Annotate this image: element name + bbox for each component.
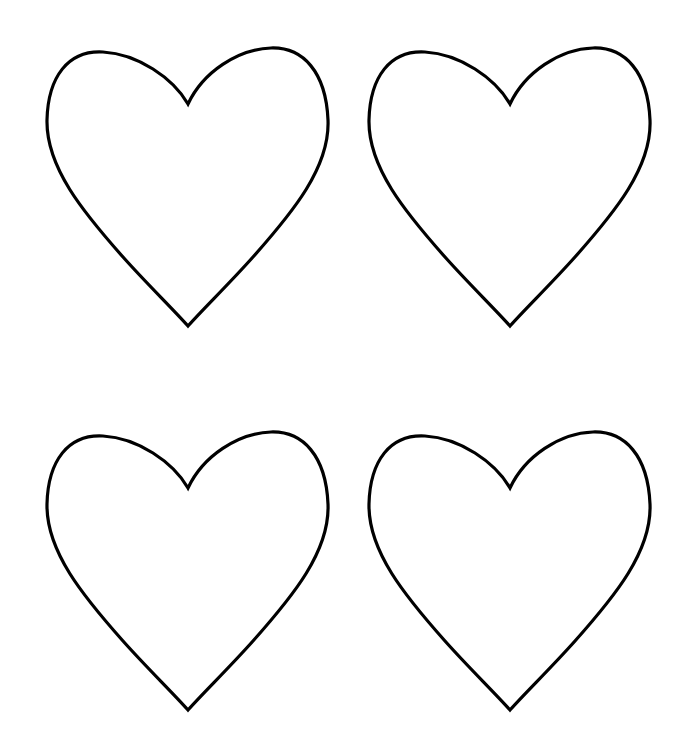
heart-template-sheet: [0, 0, 692, 743]
heart-icon: [365, 426, 655, 716]
heart-icon: [43, 42, 333, 332]
heart-outline-bottom-left: [43, 426, 333, 716]
heart-outline-top-right: [365, 42, 655, 332]
heart-outline-bottom-right: [365, 426, 655, 716]
heart-icon: [43, 426, 333, 716]
heart-icon: [365, 42, 655, 332]
heart-outline-top-left: [43, 42, 333, 332]
